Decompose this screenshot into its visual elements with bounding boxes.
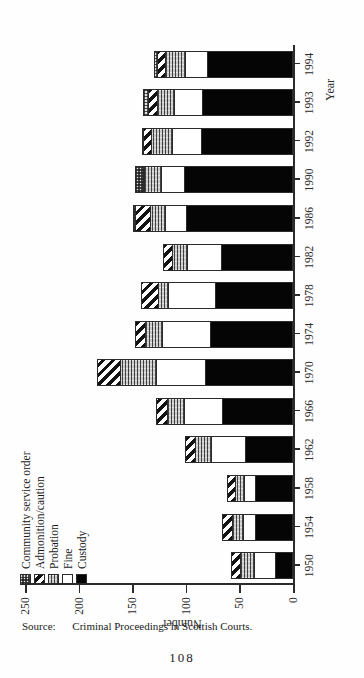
bar-segment-1993-fine xyxy=(174,89,203,116)
y-tick-mark: 200 xyxy=(79,585,81,593)
figure-source: Source: Criminal Proceedings in Scottish… xyxy=(22,620,252,632)
bar-segment-1978-custody xyxy=(215,282,293,309)
bar-segment-1994-probation xyxy=(165,51,185,78)
bar-segment-1990-probation xyxy=(144,167,162,194)
bar-segment-1992-custody xyxy=(201,128,293,155)
bar-segment-1962-fine xyxy=(211,437,245,464)
bar-segment-1966-probation xyxy=(167,398,184,425)
x-tick-label-1962: 1962 xyxy=(303,439,315,462)
bar-1994 xyxy=(155,51,293,78)
y-tick-label-150: 150 xyxy=(126,597,138,615)
bar-segment-1974-probation xyxy=(145,321,163,348)
bar-segment-1974-custody xyxy=(210,321,293,348)
y-tick-mark: 50 xyxy=(239,585,241,593)
bar-segment-1990-fine xyxy=(161,167,185,194)
x-tick-label-1978: 1978 xyxy=(303,284,315,307)
bar-segment-1994-fine xyxy=(185,51,209,78)
bar-segment-1978-fine xyxy=(168,282,216,309)
bar-1974 xyxy=(136,321,293,348)
bar-segment-1970-custody xyxy=(205,359,293,386)
x-tick-label-1954: 1954 xyxy=(303,516,315,539)
bar-1993 xyxy=(144,89,293,116)
bar-segment-1986-admonition-caution xyxy=(135,205,151,232)
y-tick-label-200: 200 xyxy=(72,597,84,615)
bar-segment-1993-custody xyxy=(202,89,293,116)
bar-1966 xyxy=(157,398,293,425)
bar-segment-1986-fine xyxy=(165,205,186,232)
bar-segment-1993-probation xyxy=(157,89,175,116)
bar-1970 xyxy=(98,359,293,386)
bar-segment-1986-custody xyxy=(186,205,293,232)
bar-segment-1982-probation xyxy=(172,244,188,271)
source-text: Criminal Proceedings in Scottish Courts. xyxy=(72,620,252,632)
stacked-bars-plot-area xyxy=(25,45,293,585)
bar-1982 xyxy=(164,244,293,271)
bar-segment-1962-probation xyxy=(195,437,212,464)
bar-segment-1970-admonition-caution xyxy=(97,359,122,386)
bar-1958 xyxy=(228,475,293,502)
y-tick-mark: 150 xyxy=(132,585,134,593)
bar-segment-1974-fine xyxy=(162,321,211,348)
book-page: Community service order Admonition/cauti… xyxy=(0,0,364,678)
x-tick-mark xyxy=(293,487,300,489)
x-tick-label-1992: 1992 xyxy=(303,130,315,153)
x-tick-label-1986: 1986 xyxy=(303,207,315,230)
x-tick-mark xyxy=(293,178,300,180)
rotated-figure-wrapper: Community service order Admonition/cauti… xyxy=(0,0,364,678)
x-tick-label-1993: 1993 xyxy=(303,91,315,114)
bar-1954 xyxy=(223,514,293,541)
x-tick-mark xyxy=(293,294,300,296)
x-tick-label-1950: 1950 xyxy=(303,554,315,577)
x-tick-mark xyxy=(293,333,300,335)
bar-segment-1954-custody xyxy=(255,514,293,541)
bar-1992 xyxy=(143,128,293,155)
x-tick-mark xyxy=(293,217,300,219)
bar-segment-1982-fine xyxy=(187,244,222,271)
bar-segment-1982-custody xyxy=(221,244,293,271)
y-tick-mark: 250 xyxy=(25,585,27,593)
bar-segment-1962-custody xyxy=(245,437,293,464)
bar-1986 xyxy=(134,205,293,232)
x-tick-mark xyxy=(293,256,300,258)
x-tick-mark xyxy=(293,371,300,373)
page-number: 108 xyxy=(0,650,364,666)
bar-segment-1950-probation xyxy=(240,552,255,579)
x-tick-mark xyxy=(293,410,300,412)
bar-segment-1992-probation xyxy=(151,128,172,155)
x-tick-label-1958: 1958 xyxy=(303,477,315,500)
bar-segment-1994-custody xyxy=(207,51,293,78)
x-tick-mark xyxy=(293,526,300,528)
x-axis-line xyxy=(293,45,295,585)
bar-segment-1986-probation xyxy=(150,205,166,232)
x-tick-mark xyxy=(293,140,300,142)
x-tick-label-1966: 1966 xyxy=(303,400,315,423)
bar-segment-1992-fine xyxy=(172,128,202,155)
bar-segment-1970-fine xyxy=(156,359,206,386)
x-tick-mark xyxy=(293,101,300,103)
y-tick-label-100: 100 xyxy=(180,597,192,615)
x-tick-mark xyxy=(293,564,300,566)
y-tick-label-250: 250 xyxy=(19,597,31,615)
bar-1950 xyxy=(232,552,293,579)
x-tick-label-1974: 1974 xyxy=(303,323,315,346)
bar-segment-1950-fine xyxy=(254,552,275,579)
bar-segment-1966-fine xyxy=(184,398,224,425)
x-tick-mark xyxy=(293,63,300,65)
source-label: Source: xyxy=(22,620,56,632)
bar-segment-1970-probation xyxy=(120,359,156,386)
x-tick-label-1990: 1990 xyxy=(303,169,315,192)
bar-segment-1950-custody xyxy=(275,552,293,579)
x-tick-label-1982: 1982 xyxy=(303,246,315,269)
bar-1990 xyxy=(136,167,293,194)
bar-segment-1954-fine xyxy=(243,514,257,541)
y-tick-mark: 100 xyxy=(186,585,188,593)
x-tick-label-1970: 1970 xyxy=(303,361,315,384)
x-tick-mark xyxy=(293,448,300,450)
y-tick-label-50: 50 xyxy=(233,597,245,609)
bar-segment-1990-custody xyxy=(184,167,293,194)
bar-segment-1966-custody xyxy=(222,398,293,425)
x-tick-label-1994: 1994 xyxy=(303,53,315,76)
x-axis-title: Year xyxy=(323,79,338,101)
y-tick-label-0: 0 xyxy=(287,597,299,603)
bar-1962 xyxy=(186,437,293,464)
